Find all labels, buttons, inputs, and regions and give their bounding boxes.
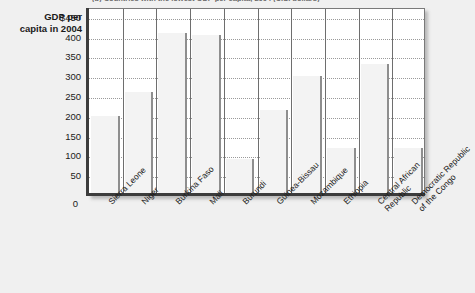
category-divider	[123, 9, 124, 195]
category-divider	[258, 9, 259, 195]
bar-slot	[89, 9, 123, 195]
category-divider	[325, 9, 326, 195]
y-axis-tick-label: 400	[5, 33, 81, 43]
y-axis-tick-label: 350	[5, 52, 81, 62]
bar[interactable]	[158, 33, 187, 195]
category-divider	[190, 9, 191, 195]
category-divider	[392, 9, 393, 195]
bar-slot	[258, 9, 292, 195]
y-axis-tick-label: 100	[5, 151, 81, 161]
bar-slot	[224, 9, 258, 195]
category-divider	[224, 9, 225, 195]
category-divider	[156, 9, 157, 195]
y-axis-tick-label: 250	[5, 92, 81, 102]
bar[interactable]	[91, 116, 120, 195]
category-divider	[359, 9, 360, 195]
bar-slot	[156, 9, 190, 195]
y-axis-zero-label: 0	[58, 198, 78, 209]
y-axis-tick-label: 50	[5, 171, 81, 181]
y-axis-line	[86, 8, 89, 196]
bar-slot	[359, 9, 393, 195]
bar[interactable]	[361, 64, 390, 195]
y-axis-tick-label: 300	[5, 72, 81, 82]
y-axis-tick-label: $450	[5, 13, 81, 23]
y-axis-tick-label: 150	[5, 132, 81, 142]
y-axis-tick-label: 200	[5, 112, 81, 122]
category-divider	[291, 9, 292, 195]
